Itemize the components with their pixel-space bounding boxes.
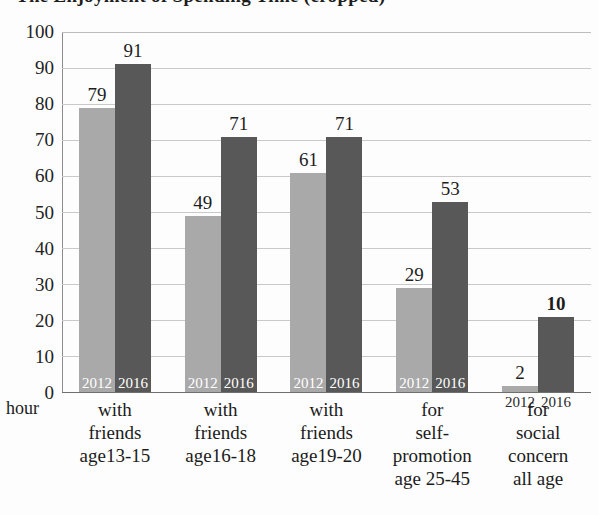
x-axis-category-line: with [64, 398, 166, 421]
x-axis-category-line: social [487, 421, 589, 444]
bar-2012-4[interactable]: 292012 [396, 288, 432, 393]
x-axis-category-label: withfriendsage19-20 [274, 398, 380, 490]
x-axis-category-line: friends [170, 421, 272, 444]
y-axis-tick-label: 10 [8, 347, 54, 366]
bar-series-tag: 2012 [396, 376, 432, 391]
bar-slot: 712016 [326, 32, 362, 393]
bar-value-label: 29 [405, 265, 424, 284]
bar-value-label: 2 [515, 363, 525, 382]
x-axis-category-label: forself-promotionage 25-45 [379, 398, 485, 490]
bar-2016-2[interactable]: 712016 [221, 137, 257, 393]
x-axis-category-line: age13-15 [64, 444, 166, 467]
bar-series-tag: 2016 [326, 376, 362, 391]
y-axis: 1009080706050403020100 [0, 0, 54, 515]
x-axis-category-label: forsocialconcernall age [485, 398, 591, 490]
bar-slot: 532016 [432, 32, 468, 393]
bar-value-label: 71 [335, 114, 354, 133]
bar-groups: 7920129120164920127120166120127120162920… [62, 32, 591, 393]
plot-area: 7920129120164920127120166120127120162920… [62, 32, 591, 393]
chart-page: The Enjoyment of Spending Time (cropped)… [0, 0, 599, 515]
bar-2016-3[interactable]: 712016 [326, 137, 362, 393]
x-axis-labels: withfriendsage13-15withfriendsage16-18wi… [62, 398, 591, 490]
x-axis-category-line: with [276, 398, 378, 421]
bar-series-tag: 2016 [221, 376, 257, 391]
x-axis-line [62, 392, 591, 393]
bar-value-label: 53 [441, 179, 460, 198]
bar-2016-4[interactable]: 532016 [432, 202, 468, 393]
bar-slot: 612012 [290, 32, 326, 393]
x-axis-category-label: withfriendsage13-15 [62, 398, 168, 490]
y-axis-tick-label: 20 [8, 311, 54, 330]
x-axis-category-line: for [487, 398, 589, 421]
bar-value-label: 91 [123, 41, 142, 60]
x-axis-category-line: with [170, 398, 272, 421]
bar-slot: 22012 [502, 32, 538, 393]
y-axis-tick-label: 90 [8, 58, 54, 77]
bar-slot: 712016 [221, 32, 257, 393]
bar-slot: 292012 [396, 32, 432, 393]
bar-slot: 912016 [115, 32, 151, 393]
bar-2016-1[interactable]: 912016 [115, 64, 151, 393]
bar-2012-1[interactable]: 792012 [79, 108, 115, 393]
bar-group: 612012712016 [274, 32, 380, 393]
bar-2012-3[interactable]: 612012 [290, 173, 326, 393]
x-axis-category-line: all age [487, 467, 589, 490]
bar-value-label: 61 [299, 150, 318, 169]
y-axis-tick-label: 80 [8, 94, 54, 113]
bar-group: 292012532016 [379, 32, 485, 393]
bar-2016-5[interactable]: 102016 [538, 317, 574, 393]
bar-slot: 492012 [185, 32, 221, 393]
y-axis-tick-label: 40 [8, 239, 54, 258]
x-axis-category-line: for [381, 398, 483, 421]
chart-title-strip: The Enjoyment of Spending Time (cropped) [0, 0, 599, 13]
x-axis-category-line: age16-18 [170, 444, 272, 467]
bar-value-label: 79 [87, 85, 106, 104]
y-axis-tick-label: 30 [8, 275, 54, 294]
bar-group: 492012712016 [168, 32, 274, 393]
bar-series-tag: 2012 [79, 376, 115, 391]
bar-value-label: 71 [229, 114, 248, 133]
x-axis-category-line: promotion [381, 444, 483, 467]
x-axis-category-line: age 25-45 [381, 467, 483, 490]
bar-slot: 792012 [79, 32, 115, 393]
bar-series-tag: 2016 [432, 376, 468, 391]
x-axis-category-line: age19-20 [276, 444, 378, 467]
bar-series-tag: 2012 [185, 376, 221, 391]
x-axis-category-label: withfriendsage16-18 [168, 398, 274, 490]
bar-value-label: 10 [547, 294, 566, 313]
bar-group: 22012102016 [485, 32, 591, 393]
bar-value-label: 49 [193, 193, 212, 212]
y-axis-tick-label: 100 [8, 22, 54, 41]
bar-slot: 102016 [538, 32, 574, 393]
chart-title: The Enjoyment of Spending Time (cropped) [16, 0, 385, 7]
x-axis-category-line: self- [381, 421, 483, 444]
bar-group: 792012912016 [62, 32, 168, 393]
bar-2012-2[interactable]: 492012 [185, 216, 221, 393]
bar-series-tag: 2012 [290, 376, 326, 391]
x-axis-category-line: concern [487, 444, 589, 467]
y-axis-tick-label: 60 [8, 166, 54, 185]
x-axis-category-line: friends [64, 421, 166, 444]
axis-unit-label: hour [6, 398, 39, 418]
y-axis-tick-label: 50 [8, 203, 54, 222]
x-axis-category-line: friends [276, 421, 378, 444]
y-axis-tick-label: 70 [8, 130, 54, 149]
bar-series-tag: 2016 [115, 376, 151, 391]
